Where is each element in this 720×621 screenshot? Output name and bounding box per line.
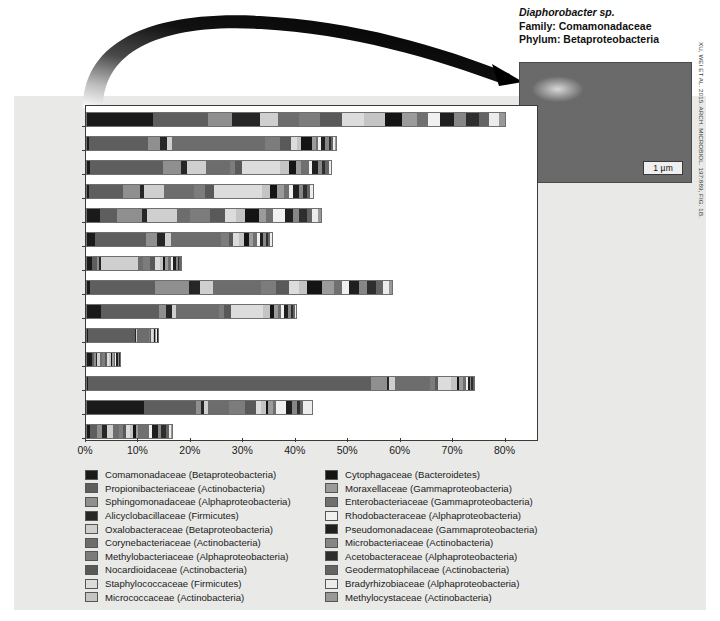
bar-segment — [87, 209, 100, 222]
legend-label: Methylobacteriaceae (Alphaproteobacteria… — [105, 551, 288, 562]
bar-segment — [87, 305, 101, 318]
bar-segment — [190, 209, 210, 222]
bar-segment — [155, 281, 190, 294]
bar-segment — [176, 305, 219, 318]
stacked-bar[interactable] — [86, 328, 159, 343]
bar-segment — [273, 209, 285, 222]
legend-item[interactable]: Micrococcaceae (Actinobacteria) — [85, 590, 330, 604]
legend-item[interactable]: Sphingomonadaceae (Alphaproteobacteria) — [85, 495, 330, 509]
x-tick-label: 40% — [284, 444, 305, 456]
bar-segment — [280, 137, 290, 150]
bar-segment — [385, 113, 402, 126]
legend-item[interactable]: Rhodobacteraceae (Alphaproteobacteria) — [325, 509, 570, 523]
stacked-bar[interactable] — [86, 424, 173, 439]
stacked-bar[interactable] — [86, 256, 182, 271]
stacked-bar[interactable] — [86, 376, 475, 391]
bar-segment — [165, 233, 172, 246]
bar-segment — [313, 185, 314, 198]
bar-segment — [261, 281, 276, 294]
legend-item[interactable]: Comamonadaceae (Betaproteobacteria) — [85, 468, 330, 482]
bar-segment — [265, 137, 281, 150]
legend-swatch — [325, 579, 338, 589]
legend-item[interactable]: Acetobacteraceae (Alphaproteobacteria) — [325, 550, 570, 564]
bar-segment — [359, 281, 367, 294]
legend-label: Microbacteriaceae (Actinobacteria) — [345, 537, 493, 548]
legend-label: Acetobacteraceae (Alphaproteobacteria) — [345, 551, 517, 562]
legend-item[interactable]: Cytophagaceae (Bacteroidetes) — [325, 468, 570, 482]
bar-segment — [208, 113, 232, 126]
legend-label: Moraxellaceae (Gammaproteobacteria) — [345, 483, 512, 494]
callout-species: Diaphorobacter sp. — [519, 6, 659, 20]
legend-item[interactable]: Pseudomonadaceae (Gammaproteobacteria) — [325, 522, 570, 536]
bar-segment — [395, 377, 430, 390]
legend-label: Geodermatophilaceae (Actinobacteria) — [345, 564, 509, 575]
bar-segment — [349, 281, 359, 294]
legend-swatch — [85, 511, 98, 521]
bar-segment — [371, 377, 387, 390]
bar-segment — [146, 233, 157, 246]
legend-label: Alicyclobacillaceae (Firmicutes) — [105, 510, 239, 521]
legend-item[interactable]: Microbacteriaceae (Actinobacteria) — [325, 536, 570, 550]
bar-segment — [144, 185, 164, 198]
bar-segment — [225, 209, 237, 222]
legend-item[interactable]: Staphylococcaceae (Firmicutes) — [85, 577, 330, 591]
legend-swatch — [85, 483, 98, 493]
bar-segment — [301, 161, 308, 174]
bar-segment — [334, 281, 342, 294]
bar-segment — [303, 401, 311, 414]
stacked-bar[interactable] — [86, 160, 332, 175]
bar-segment — [88, 329, 135, 342]
callout-family: Family: Comamonadaceae — [519, 20, 659, 34]
bar-segment — [276, 281, 289, 294]
bar-segment — [117, 209, 142, 222]
bar-segment — [208, 401, 229, 414]
stacked-bar[interactable] — [86, 280, 393, 295]
bar-segment — [389, 281, 393, 294]
legend-item[interactable]: Bradyrhizobiaceae (Alphaproteobacteria) — [325, 577, 570, 591]
bar-segment — [276, 401, 285, 414]
bar-segment — [489, 113, 498, 126]
stacked-bar[interactable] — [86, 352, 121, 367]
bar-segment — [90, 281, 155, 294]
legend-item[interactable]: Methylobacteriaceae (Alphaproteobacteria… — [85, 550, 330, 564]
stacked-bar[interactable] — [86, 184, 314, 199]
bar-segment — [236, 209, 244, 222]
x-tick-label: 0% — [77, 444, 92, 456]
stacked-bar[interactable] — [86, 232, 273, 247]
x-tick-label: 60% — [389, 444, 410, 456]
stacked-bar[interactable] — [86, 112, 506, 127]
bar-segment — [273, 233, 274, 246]
bar-segment — [163, 161, 181, 174]
bar-segment — [87, 113, 153, 126]
stacked-bar[interactable] — [86, 400, 313, 415]
legend-item[interactable]: Corynebacteriaceae (Actinobacteria) — [85, 536, 330, 550]
bar-segment — [301, 137, 312, 150]
legend-item[interactable]: Oxalobacteraceae (Betaproteobacteria) — [85, 522, 330, 536]
legend-swatch — [325, 497, 338, 507]
legend-item[interactable]: Enterobacteriaceae (Gammaproteobacteria) — [325, 495, 570, 509]
bar-segment — [299, 209, 307, 222]
bar-segment — [285, 209, 293, 222]
legend-item[interactable]: Propionibacteriaceae (Actinobacteria) — [85, 482, 330, 496]
stacked-bar[interactable] — [86, 304, 297, 319]
bar-segment — [454, 113, 466, 126]
x-tick-label: 10% — [127, 444, 148, 456]
x-tick-mark — [85, 438, 86, 442]
legend-item[interactable]: Geodermatophilaceae (Actinobacteria) — [325, 563, 570, 577]
stacked-bar[interactable] — [86, 136, 337, 151]
stacked-bar[interactable] — [86, 208, 322, 223]
legend-item[interactable]: Nocardioidaceae (Actinobacteria) — [85, 563, 330, 577]
legend-item[interactable]: Methylocystaceae (Actinobacteria) — [325, 590, 570, 604]
bar-segment — [137, 329, 150, 342]
legend-item[interactable]: Alicyclobacillaceae (Firmicutes) — [85, 509, 330, 523]
bar-segment — [479, 113, 489, 126]
bar-segment — [101, 257, 139, 270]
bar-segment — [194, 185, 206, 198]
bar-segment — [100, 209, 117, 222]
legend-item[interactable]: Moraxellaceae (Gammaproteobacteria) — [325, 482, 570, 496]
bar-segment — [259, 209, 266, 222]
legend-column-left: Comamonadaceae (Betaproteobacteria)Propi… — [85, 468, 330, 604]
bar-segment — [177, 209, 190, 222]
bar-segment — [322, 281, 334, 294]
legend-swatch — [85, 579, 98, 589]
